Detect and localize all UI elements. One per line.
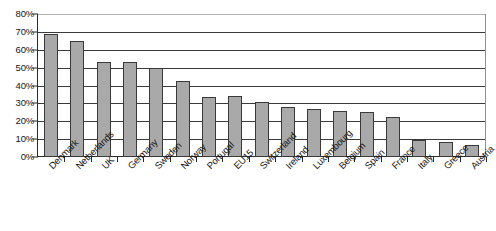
bar-slot [354,14,380,157]
bar-slot [432,14,458,157]
bar-slot [222,14,248,157]
y-axis-tick-mark [32,139,38,140]
bar-slot [406,14,432,157]
bar [255,102,269,157]
bar-slot [117,14,143,157]
y-axis-tick-label: 70% [0,27,34,37]
bar-slot [248,14,274,157]
bar [123,62,137,157]
y-axis-tick-mark [32,157,38,158]
y-axis-tick-mark [32,67,38,68]
y-axis-tick-label: 10% [0,134,34,144]
y-axis-tick-mark [32,14,38,15]
y-axis-tick-mark [32,103,38,104]
bar-slot [459,14,485,157]
bar-slot [196,14,222,157]
y-axis-tick-mark [32,85,38,86]
y-axis-tick-mark [32,121,38,122]
y-axis-tick-labels: 80%70%60%50%40%30%20%10%0% [0,14,34,156]
y-axis-tick-mark [32,49,38,50]
y-axis-tick-label: 60% [0,45,34,55]
y-axis-tick-label: 50% [0,63,34,73]
bar-slot [301,14,327,157]
bar-slot [38,14,64,157]
y-axis-tick-label: 30% [0,99,34,109]
bar-slot [380,14,406,157]
x-axis-tick-labels: DenmarkNetherlandsUKGermanySwedenNorwayP… [38,162,486,231]
y-axis-tick-label: 0% [0,152,34,162]
bar-slot [169,14,195,157]
y-axis-tick-mark [32,31,38,32]
bar [44,34,58,157]
bar-slot [143,14,169,157]
y-axis-tick-label: 80% [0,9,34,19]
y-axis-tick-label: 20% [0,117,34,127]
y-axis-tick-label: 40% [0,81,34,91]
bar [386,117,400,157]
bar-slot [64,14,90,157]
